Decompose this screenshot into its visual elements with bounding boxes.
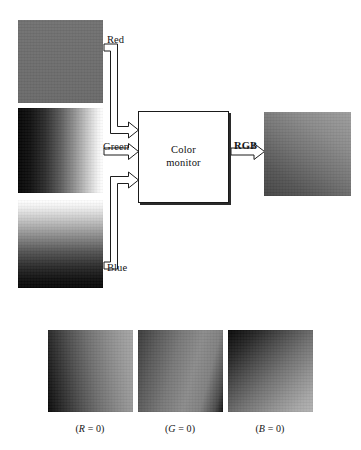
r-zero-caption-close: = 0) [85, 423, 104, 434]
r-zero-image [48, 330, 133, 412]
blue-channel-label: Blue [107, 262, 127, 273]
rgb-composite-image [264, 112, 351, 196]
b-zero-caption-close: = 0) [265, 423, 284, 434]
color-monitor-box: Color monitor [138, 111, 229, 203]
g-zero-caption: (G = 0) [140, 423, 220, 434]
color-monitor-text: Color monitor [166, 144, 201, 170]
b-zero-image [228, 330, 313, 412]
green-channel-label: Green [103, 141, 129, 152]
b-zero-caption: (B = 0) [230, 423, 310, 434]
blue-channel-image [18, 200, 103, 288]
r-zero-caption: (R = 0) [50, 423, 130, 434]
green-channel-image [18, 108, 103, 193]
g-zero-caption-var: G [168, 423, 175, 434]
g-zero-caption-close: = 0) [176, 423, 195, 434]
g-zero-image [138, 330, 223, 412]
red-channel-arrow [104, 44, 139, 138]
color-monitor-line2: monitor [166, 157, 201, 168]
color-monitor-figure: Red Green Blue RGB Color monitor (R = 0)… [0, 0, 361, 450]
red-channel-label: Red [107, 34, 124, 45]
color-monitor-line1: Color [171, 144, 196, 155]
red-channel-image [18, 20, 103, 103]
blue-channel-arrow [104, 172, 139, 269]
rgb-output-label: RGB [234, 140, 257, 151]
